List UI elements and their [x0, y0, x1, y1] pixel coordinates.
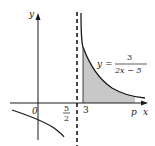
function-label-numerator: 3 [127, 53, 132, 62]
origin-label: 0 [32, 106, 38, 116]
y-axis-label: y [28, 9, 35, 19]
asymptote-label-denominator: 2 [64, 114, 69, 123]
x-axis-label: x [143, 107, 148, 117]
function-graph: y x 0 5 2 3 p y = 3 2x − 5 [0, 0, 155, 146]
function-label-lhs: y = [96, 59, 113, 69]
y-axis-arrow-icon [36, 13, 41, 20]
upper-bound-label: p [131, 107, 137, 117]
asymptote-label-numerator: 5 [64, 104, 69, 113]
lower-bound-label: 3 [83, 105, 89, 115]
x-axis-arrow-icon [141, 101, 148, 106]
function-label-denominator: 2x − 5 [114, 66, 141, 75]
